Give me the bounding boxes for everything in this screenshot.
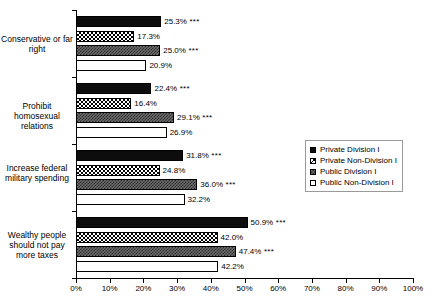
bar xyxy=(76,98,131,109)
legend-label: Private Division I xyxy=(320,144,380,155)
chart-legend: Private Division IPrivate Non-Division I… xyxy=(305,140,403,192)
legend-swatch-icon xyxy=(310,158,316,164)
bar-value-label: 42.0% xyxy=(221,232,244,243)
x-tick-label: 70% xyxy=(295,284,329,293)
significance-marker: *** xyxy=(187,17,200,26)
category-label: Increase federal military spending xyxy=(0,163,74,183)
significance-marker: *** xyxy=(223,180,236,189)
bar-value-label: 17.3% xyxy=(137,31,160,42)
category-label: Wealthy people should not pay more taxes xyxy=(0,230,74,260)
category-label: Conservative or far right xyxy=(0,34,74,54)
bar-value-label: 26.9% xyxy=(170,127,193,138)
x-tick-label: 80% xyxy=(329,284,363,293)
x-tick-label: 40% xyxy=(194,284,228,293)
x-tick xyxy=(76,279,77,283)
legend-swatch-icon xyxy=(310,169,316,175)
bar-value-label: 25.3% *** xyxy=(164,16,199,27)
bar-value-label: 25.0% *** xyxy=(163,45,198,56)
x-tick xyxy=(110,279,111,283)
bar-value-label: 20.9% xyxy=(149,60,172,71)
x-tick-label: 50% xyxy=(228,284,262,293)
x-tick xyxy=(278,279,279,283)
x-tick-label: 0% xyxy=(59,284,93,293)
x-tick xyxy=(379,279,380,283)
x-tick xyxy=(346,279,347,283)
significance-marker: *** xyxy=(209,151,222,160)
legend-item[interactable]: Private Non-Division I xyxy=(310,155,397,166)
significance-marker: *** xyxy=(186,46,199,55)
bar xyxy=(76,60,146,71)
bar-value-label: 29.1% *** xyxy=(177,112,212,123)
bar xyxy=(76,150,183,161)
significance-marker: *** xyxy=(261,247,274,256)
bar xyxy=(76,127,167,138)
bar xyxy=(76,232,218,243)
y-tick xyxy=(72,10,77,11)
bar xyxy=(76,179,197,190)
x-tick-label: 20% xyxy=(126,284,160,293)
bar xyxy=(76,83,151,94)
bar-value-label: 42.2% xyxy=(221,261,244,272)
category-label: Prohibit homosexual relations xyxy=(0,101,74,131)
significance-marker: *** xyxy=(177,84,190,93)
legend-label: Public Division I xyxy=(320,166,376,177)
legend-item[interactable]: Public Non-Division I xyxy=(310,177,397,188)
x-tick-label: 10% xyxy=(93,284,127,293)
legend-item[interactable]: Public Division I xyxy=(310,166,397,177)
bar-value-label: 31.8% *** xyxy=(186,150,221,161)
bar xyxy=(76,165,160,176)
significance-marker: *** xyxy=(273,218,286,227)
bar xyxy=(76,16,161,27)
bar-value-label: 24.8% xyxy=(163,165,186,176)
bar xyxy=(76,112,174,123)
bar-value-label: 36.0% *** xyxy=(200,179,235,190)
x-tick-label: 90% xyxy=(362,284,396,293)
significance-marker: *** xyxy=(200,113,213,122)
bar-value-label: 47.4% *** xyxy=(239,246,274,257)
bar-value-label: 50.9% *** xyxy=(251,217,286,228)
y-tick xyxy=(72,77,77,78)
x-tick xyxy=(177,279,178,283)
bar-value-label: 22.4% *** xyxy=(154,83,189,94)
bar xyxy=(76,246,236,257)
legend-swatch-icon xyxy=(310,147,316,153)
bar-value-label: 16.4% xyxy=(134,98,157,109)
x-tick xyxy=(143,279,144,283)
x-tick xyxy=(211,279,212,283)
x-tick xyxy=(413,279,414,283)
legend-item[interactable]: Private Division I xyxy=(310,144,397,155)
y-tick xyxy=(72,144,77,145)
bar xyxy=(76,261,218,272)
bar xyxy=(76,194,185,205)
x-tick-label: 100% xyxy=(396,284,430,293)
legend-label: Public Non-Division I xyxy=(320,177,394,188)
x-tick-label: 60% xyxy=(261,284,295,293)
bar-chart: 0%10%20%30%40%50%60%70%80%90%100% Conser… xyxy=(0,0,430,300)
bar xyxy=(76,45,160,56)
x-tick-label: 30% xyxy=(160,284,194,293)
legend-swatch-icon xyxy=(310,180,316,186)
bar xyxy=(76,31,134,42)
legend-label: Private Non-Division I xyxy=(320,155,397,166)
x-tick xyxy=(312,279,313,283)
y-tick xyxy=(72,211,77,212)
bar xyxy=(76,217,248,228)
bar-value-label: 32.2% xyxy=(188,194,211,205)
x-tick xyxy=(245,279,246,283)
